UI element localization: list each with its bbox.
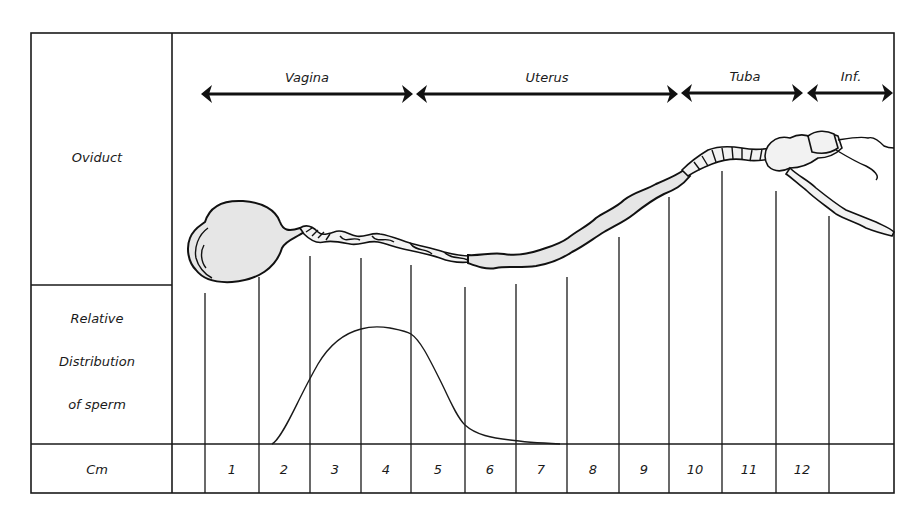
row-label-distribution-2: Distribution xyxy=(59,354,135,369)
sperm-distribution-chart xyxy=(272,327,560,444)
cm-tick-10: 10 xyxy=(687,462,704,477)
infundibulum-block xyxy=(808,131,838,153)
oviduct-illustration xyxy=(188,131,894,282)
cm-tick-12: 12 xyxy=(794,462,811,477)
row-label-oviduct: Oviduct xyxy=(72,150,123,165)
cm-tick-labels: 1 2 3 4 5 6 7 8 9 10 11 12 xyxy=(228,462,810,477)
region-tuba: Tuba xyxy=(681,69,803,102)
cm-tick-6: 6 xyxy=(486,462,494,477)
region-arrows: Vagina Uterus Tuba Inf. xyxy=(201,69,893,103)
uterus-tube xyxy=(468,170,690,269)
cm-tick-11: 11 xyxy=(741,462,758,477)
cm-tick-9: 9 xyxy=(640,462,648,477)
region-uterus: Uterus xyxy=(416,70,678,103)
row-label-distribution-1: Relative xyxy=(70,311,123,326)
cm-tick-2: 2 xyxy=(280,462,288,477)
cm-tick-5: 5 xyxy=(434,462,442,477)
vagina-tube xyxy=(300,226,470,262)
region-label-tuba: Tuba xyxy=(729,69,760,84)
oviduct-sperm-distribution-figure: Oviduct Relative Distribution of sperm C… xyxy=(0,0,922,520)
infundibulum-fimbria-middle xyxy=(836,150,877,180)
cm-grid-lines xyxy=(205,171,829,493)
region-vagina: Vagina xyxy=(201,70,413,103)
cm-tick-1: 1 xyxy=(228,462,236,477)
cm-tick-7: 7 xyxy=(537,462,546,477)
cm-tick-4: 4 xyxy=(382,462,390,477)
region-label-vagina: Vagina xyxy=(285,70,329,85)
row-labels: Oviduct Relative Distribution of sperm C… xyxy=(59,150,135,477)
sperm-distribution-curve xyxy=(272,327,560,444)
cloaca-bulb xyxy=(188,201,304,282)
region-label-uterus: Uterus xyxy=(526,70,569,85)
infundibulum-fimbria-upper xyxy=(838,137,894,148)
cm-tick-8: 8 xyxy=(589,462,597,477)
row-label-distribution-3: of sperm xyxy=(68,397,126,412)
region-label-inf: Inf. xyxy=(841,69,862,84)
region-infundibulum: Inf. xyxy=(807,69,893,102)
row-label-cm: Cm xyxy=(86,462,108,477)
cm-tick-3: 3 xyxy=(331,462,339,477)
